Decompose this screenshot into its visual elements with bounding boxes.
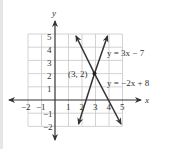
y-tick: 1 (47, 84, 52, 94)
x-axis-label: x (144, 95, 149, 105)
line-label-1: y = 3x − 7 (107, 48, 145, 58)
x-tick: −2 (21, 102, 31, 112)
y-tick: 2 (47, 71, 52, 81)
y-tick: 5 (47, 32, 52, 42)
line-y-3x-minus-7-lower (79, 74, 95, 124)
line-y-3x-minus-7 (95, 36, 108, 74)
line-label-2: y = −2x + 8 (107, 78, 150, 88)
x-tick: 5 (120, 102, 125, 112)
x-tick: 2 (80, 102, 85, 112)
point-label: (3, 2) (68, 69, 88, 79)
y-axis-label: y (51, 8, 56, 18)
intersection-point (93, 72, 97, 76)
y-tick: 3 (47, 58, 52, 68)
x-tick: 3 (93, 102, 98, 112)
y-tick: 4 (47, 45, 52, 55)
x-tick: 1 (66, 102, 71, 112)
y-tick: −2 (43, 122, 53, 132)
y-tick: −1 (43, 109, 53, 119)
coordinate-plane: y x −2 −1 1 2 3 4 5 5 4 3 2 1 −1 −2 (3, … (0, 0, 171, 149)
line-y-neg2x-plus-8 (76, 36, 95, 74)
x-tick: 4 (107, 102, 112, 112)
